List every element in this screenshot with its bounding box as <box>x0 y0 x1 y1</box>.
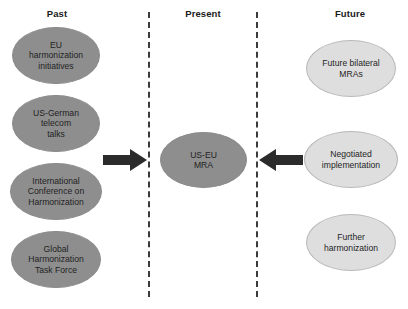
diagram-canvas: Past Present Future EU harmonization ini… <box>0 0 408 309</box>
node-negotiated-implementation[interactable]: Negotiated implementation <box>304 131 398 188</box>
node-further-harmonization[interactable]: Further harmonization <box>306 214 396 271</box>
node-label: US-German telecom talks <box>27 108 85 139</box>
node-us-eu-mra[interactable]: US-EU MRA <box>160 132 247 188</box>
column-header-present: Present <box>185 8 221 19</box>
node-label: Future bilateral MRAs <box>316 58 385 79</box>
node-label: EU harmonization initiatives <box>23 40 89 71</box>
node-international-conference-on-harmonization[interactable]: International Conference on Harmonizatio… <box>10 163 102 220</box>
node-future-bilateral-mras[interactable]: Future bilateral MRAs <box>306 40 396 97</box>
node-label: US-EU MRA <box>184 150 223 171</box>
node-label: Negotiated implementation <box>316 149 386 170</box>
divider-past-present <box>148 12 150 297</box>
column-header-future: Future <box>335 8 365 19</box>
node-label: Global Harmonization Task Force <box>22 244 89 275</box>
divider-present-future <box>256 12 258 297</box>
arrow-future-to-present <box>259 149 303 171</box>
node-eu-harmonization-initiatives[interactable]: EU harmonization initiatives <box>12 27 100 84</box>
node-us-german-telecom-talks[interactable]: US-German telecom talks <box>12 95 100 152</box>
node-label: Further harmonization <box>318 232 384 253</box>
arrow-past-to-present <box>103 149 147 171</box>
column-header-past: Past <box>47 8 67 19</box>
node-global-harmonization-task-force[interactable]: Global Harmonization Task Force <box>11 231 101 288</box>
node-label: International Conference on Harmonizatio… <box>22 176 90 207</box>
